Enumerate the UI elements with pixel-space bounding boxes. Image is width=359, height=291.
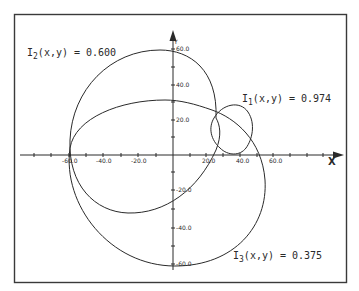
y-tick-label: 40.0 [176,81,190,88]
x-tick-label: -20.0 [131,157,147,164]
x-tick-label: -40.0 [96,157,112,164]
curve-i2 [70,50,220,213]
curve-i3 [69,100,265,266]
y-axis: 60.0 40.0 20.0 -20.0 -40.0 -60.0 Y [170,30,192,270]
x-tick-label: 60.0 [269,157,283,164]
y-tick-label: -40.0 [176,224,192,231]
y-tick-label: -20.0 [176,186,192,193]
curve-label-i3: I3(x,y) = 0.375 [233,250,322,264]
y-tick-label: 20.0 [176,116,190,123]
curve-label-i2: I2(x,y) = 0.600 [27,47,116,61]
x-tick-label: -60.0 [62,157,78,164]
contour-diagram: -60.0 -40.0 -20.0 20.0 40.0 60.0 X 60.0 … [0,0,359,291]
x-tick-label: 40.0 [236,157,250,164]
y-tick-label: 60.0 [176,45,190,52]
x-tick-label: 20.0 [202,157,216,164]
x-axis: -60.0 -40.0 -20.0 20.0 40.0 60.0 X [20,152,344,168]
x-axis-label: X [328,156,336,167]
curve-label-i1: I1(x,y) = 0.974 [242,93,331,107]
y-axis-label: Y [173,38,178,45]
